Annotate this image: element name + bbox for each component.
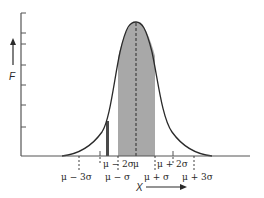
label-mu-plus-3sigma: μ + 3σ [182,172,213,182]
x-arrow-head-icon [180,184,187,190]
label-mu-minus-2sigma: μ − 2σ [103,159,134,169]
y-axis-label: F [9,71,16,82]
label-mu-plus-sigma: μ + σ [144,172,169,182]
y-arrow-head-icon [10,38,16,45]
label-mu-minus-3sigma: μ − 3σ [61,172,92,182]
label-mu: μ [133,159,139,169]
normal-distribution-diagram: F X μ − 2σ μ μ + 2σ μ − 3σ μ − σ μ + σ μ… [0,0,264,198]
label-mu-minus-sigma: μ − σ [105,172,130,182]
marker-bar [106,121,109,156]
y-axis-ticks [21,13,26,127]
x-axis-label: X [135,182,143,193]
label-mu-plus-2sigma: μ + 2σ [157,159,188,169]
